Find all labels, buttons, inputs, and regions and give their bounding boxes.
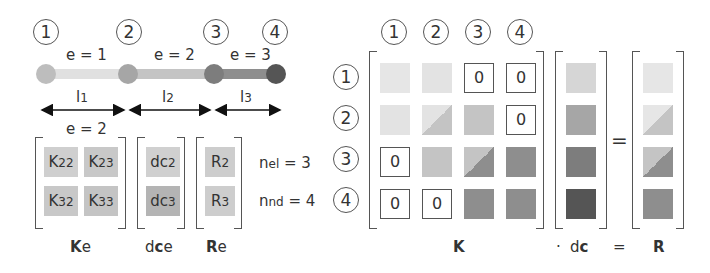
node-2-marker: 2: [116, 19, 142, 45]
ke-cell-33: K33: [84, 186, 118, 216]
k-row-header-2: 2: [333, 105, 359, 131]
element-1-label: e = 1: [66, 46, 107, 64]
r-cell-2: [643, 105, 673, 135]
k-bracket-left: [369, 51, 377, 229]
node-3-dot: [204, 64, 224, 84]
k-row-header-3: 3: [333, 146, 359, 172]
k-cell-34: [506, 147, 536, 177]
dc-bracket-right: [599, 51, 607, 229]
re-bracket-left: [196, 137, 204, 229]
dc-bracket-left: [555, 51, 563, 229]
nel-count: nel = 3: [259, 154, 311, 172]
dce-cell-2: dc2: [146, 147, 180, 177]
dc-label: dc: [570, 238, 588, 256]
element-2-label: e = 2: [154, 46, 195, 64]
r-cell-3: [643, 147, 673, 177]
dce-bracket-left: [137, 137, 145, 229]
nnd-count: nnd = 4: [259, 192, 315, 210]
re-cell-3: R3: [205, 186, 235, 216]
k-cell-12: [422, 63, 452, 93]
dc-cell-1: [566, 63, 596, 93]
k-col-header-2: 2: [423, 19, 449, 45]
k-col-header-3: 3: [465, 19, 491, 45]
matrix-equals-sign: =: [611, 128, 628, 152]
element-1-bar: [46, 69, 128, 79]
node-4-dot: [266, 64, 286, 84]
ke-bracket-right: [118, 137, 126, 229]
ke-cell-22: K22: [44, 147, 78, 177]
k-col-header-4: 4: [507, 19, 533, 45]
k-label: K: [453, 238, 465, 256]
k-cell-33: [464, 147, 494, 177]
dce-label: dce: [145, 238, 173, 256]
k-cell-13-zero: 0: [464, 63, 494, 93]
equation-equals: =: [613, 238, 626, 256]
dot-operator: ·: [556, 238, 561, 256]
r-cell-1: [643, 63, 673, 93]
node-4-marker: 4: [262, 19, 288, 45]
re-bracket-right: [234, 137, 242, 229]
k-row-header-1: 1: [333, 64, 359, 90]
k-cell-11: [380, 63, 410, 93]
node-1-dot: [36, 64, 56, 84]
ke-cell-23: K23: [84, 147, 118, 177]
k-col-header-1: 1: [381, 19, 407, 45]
k-cell-14-zero: 0: [506, 63, 536, 93]
k-cell-42-zero: 0: [422, 189, 452, 219]
node-3-marker: 3: [203, 19, 229, 45]
k-cell-32: [422, 147, 452, 177]
dce-cell-3: dc3: [146, 186, 180, 216]
k-cell-44: [506, 189, 536, 219]
k-cell-31-zero: 0: [380, 147, 410, 177]
r-label: R: [653, 238, 665, 256]
ke-label: Ke: [70, 238, 91, 256]
k-cell-22: [422, 105, 452, 135]
element-2-bar: [128, 69, 214, 79]
ke-cell-32: K32: [44, 186, 78, 216]
dc-cell-3: [566, 147, 596, 177]
element-matrix-title: e = 2: [66, 120, 107, 138]
ke-bracket-left: [35, 137, 43, 229]
node-1-marker: 1: [33, 19, 59, 45]
k-cell-41-zero: 0: [380, 189, 410, 219]
k-cell-23: [464, 105, 494, 135]
re-label: Re: [206, 238, 227, 256]
element-3-label: e = 3: [230, 46, 271, 64]
r-bracket-right: [676, 51, 684, 229]
dc-cell-2: [566, 105, 596, 135]
length-arrows: [0, 100, 300, 120]
r-cell-4: [643, 189, 673, 219]
k-cell-43: [464, 189, 494, 219]
dc-cell-4: [566, 189, 596, 219]
k-bracket-right: [536, 51, 544, 229]
k-cell-21: [380, 105, 410, 135]
r-bracket-left: [632, 51, 640, 229]
k-row-header-4: 4: [333, 187, 359, 213]
k-cell-24-zero: 0: [506, 105, 536, 135]
re-cell-2: R2: [205, 147, 235, 177]
node-2-dot: [118, 64, 138, 84]
